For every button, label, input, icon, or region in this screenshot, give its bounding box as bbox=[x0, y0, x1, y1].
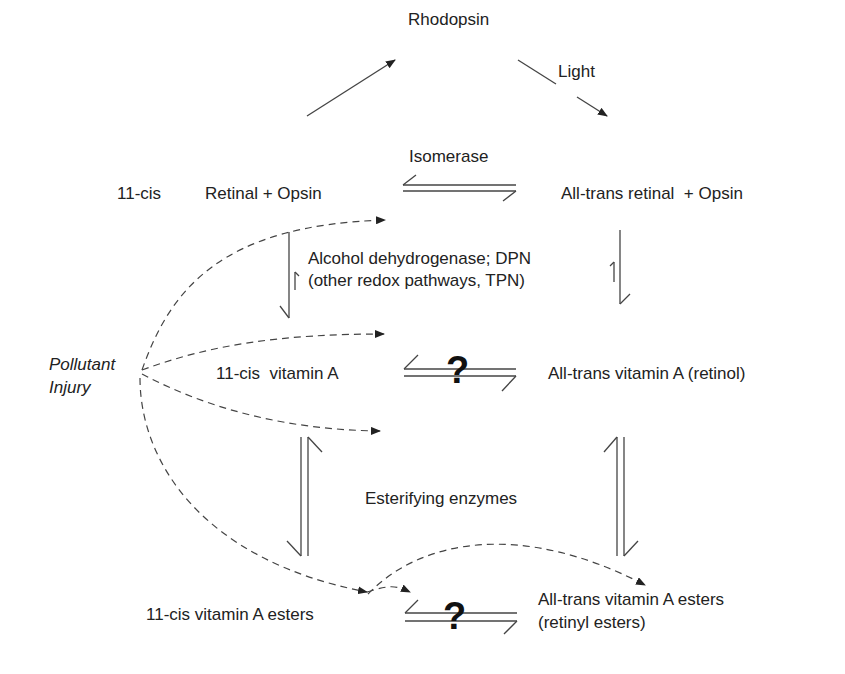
arrow-to-rhodopsin bbox=[307, 60, 395, 116]
diagram-canvas bbox=[0, 0, 845, 674]
pollutant-arrow-to-cis-esters bbox=[140, 378, 367, 592]
label-alcohol-dehydrogenase: Alcohol dehydrogenase; DPN bbox=[308, 249, 531, 269]
dashed-arrow-to-esters-step bbox=[367, 587, 410, 592]
node-retinyl-esters: (retinyl esters) bbox=[538, 613, 646, 633]
right-redox-equilibrium-arrow bbox=[610, 230, 630, 304]
node-all-trans-vitamin-a-esters: All-trans vitamin A esters bbox=[538, 590, 724, 610]
node-11-cis-prefix: 11-cis bbox=[117, 184, 161, 204]
node-injury: Injury bbox=[49, 378, 91, 398]
node-cis-retinal-opsin: Retinal + Opsin bbox=[205, 184, 322, 204]
node-all-trans-vitamin-a: All-trans vitamin A (retinol) bbox=[548, 364, 745, 384]
unknown-step-vitamin-a: ? bbox=[446, 350, 469, 390]
node-all-trans-retinal-opsin: All-trans retinal + Opsin bbox=[561, 184, 743, 204]
node-rhodopsin: Rhodopsin bbox=[408, 10, 489, 30]
node-pollutant: Pollutant bbox=[49, 355, 115, 375]
pollutant-arrow-to-isomerase bbox=[142, 220, 385, 370]
node-11-cis-vitamin-a: 11-cis vitamin A bbox=[216, 364, 339, 384]
label-esterifying-enzymes: Esterifying enzymes bbox=[365, 489, 517, 509]
unknown-step-esters: ? bbox=[443, 596, 466, 636]
right-esterifying-equilibrium-arrow bbox=[604, 437, 638, 556]
dashed-arrow-to-alltrans-esters bbox=[368, 544, 645, 594]
label-light: Light bbox=[558, 62, 595, 82]
left-esterifying-equilibrium-arrow bbox=[287, 437, 322, 556]
arrow-rhodopsin-light-segment bbox=[518, 60, 556, 84]
node-11-cis-vitamin-a-esters: 11-cis vitamin A esters bbox=[146, 605, 314, 625]
left-redox-equilibrium-arrow bbox=[280, 232, 299, 318]
label-isomerase: Isomerase bbox=[409, 147, 488, 167]
isomerase-equilibrium-arrow bbox=[403, 175, 516, 201]
label-other-redox-pathways: (other redox pathways, TPN) bbox=[308, 271, 525, 291]
arrow-light-to-alltrans bbox=[577, 97, 607, 116]
